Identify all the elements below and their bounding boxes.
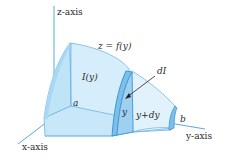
- x-axis-label: x-axis: [22, 142, 48, 152]
- slice-label: dI: [157, 66, 167, 76]
- surface-label: z = f(y): [97, 41, 132, 51]
- a-label: a: [73, 98, 78, 108]
- y-plus-dy-label: y+dy: [135, 110, 160, 120]
- y-axis-label: y-axis: [185, 131, 212, 141]
- volume-slice-diagram: z-axis z = f(y) I(y) dI a y y+dy b y-axi…: [0, 0, 229, 161]
- solid-right-top: [132, 71, 175, 132]
- b-label: b: [180, 114, 186, 124]
- z-axis-label: z-axis: [57, 7, 83, 17]
- y-label: y: [121, 107, 128, 117]
- cross-section-label: I(y): [81, 72, 98, 82]
